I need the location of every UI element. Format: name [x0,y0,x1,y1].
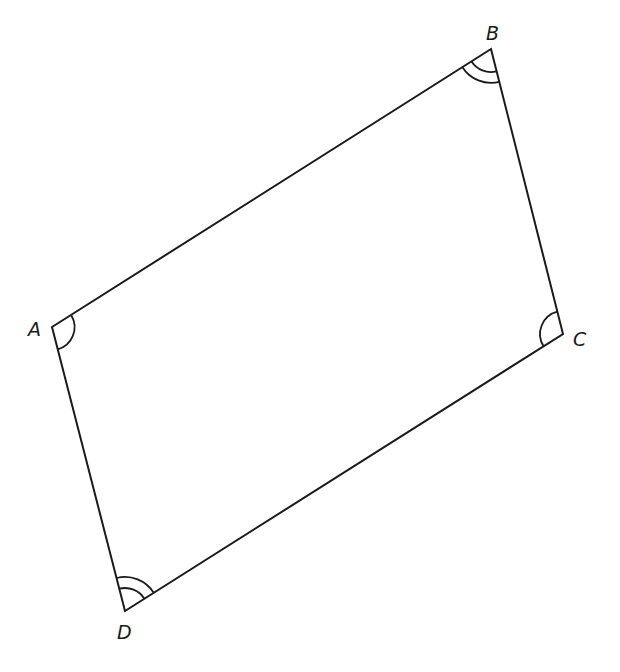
vertex-label-b: B [486,22,499,44]
vertex-label-c: C [573,328,587,350]
vertex-label-d: D [117,621,132,643]
vertex-label-a: A [26,318,41,340]
angle-mark-a [58,316,75,350]
parallelogram-outline [52,49,563,611]
angle-mark-b-inner [471,61,496,72]
angle-mark-c [540,312,557,347]
parallelogram-diagram: A B C D [0,0,620,672]
angle-mark-d-inner [119,588,144,599]
